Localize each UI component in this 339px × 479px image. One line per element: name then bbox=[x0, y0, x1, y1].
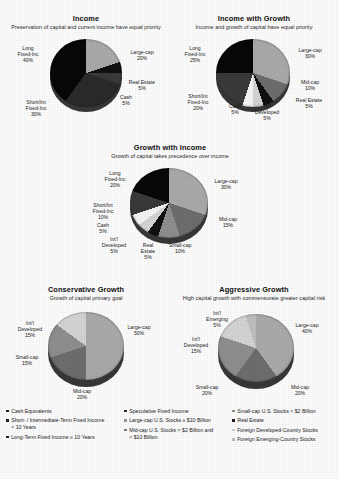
slice-label-long-fixed: Long Fixed-Inc 20% bbox=[94, 170, 136, 189]
legend-swatch-icon bbox=[232, 438, 235, 441]
legend-item: Speculative Fixed Income bbox=[124, 408, 232, 414]
slice-label-mid-cap: Mid-cap 20% bbox=[62, 388, 102, 400]
chart-subtitle: Preservation of capital and current inco… bbox=[6, 24, 166, 31]
pie-face bbox=[48, 312, 124, 380]
pie-face bbox=[216, 39, 290, 107]
document-page: Income Preservation of capital and curre… bbox=[0, 0, 339, 479]
chart-title: Aggressive Growth bbox=[174, 285, 334, 294]
pie-area: Long Fixed-Inc 40% Large-cap 20% Real Es… bbox=[6, 31, 166, 123]
slice-label-long-fixed: Long Fixed-Inc 25% bbox=[174, 45, 216, 64]
legend-item: Long-Term Fixed Income ≥ 10 Years bbox=[6, 434, 124, 440]
legend-label: Mid-cap U.S. Stocks > $2 Billion and bbox=[129, 427, 213, 433]
slice-label-large-cap: Large-cap 40% bbox=[286, 322, 328, 334]
pie-area: Int'l Developed 15% Large-cap 50% Small-… bbox=[6, 302, 166, 404]
chart-title: Growth with Income bbox=[88, 143, 252, 152]
legend-swatch-icon bbox=[232, 429, 235, 432]
legend-column-1: Cash Equivalents Short- / Intermediate-T… bbox=[6, 408, 124, 446]
chart-income: Income Preservation of capital and curre… bbox=[6, 14, 166, 123]
legend-item: Cash Equivalents bbox=[6, 408, 124, 414]
slice-label-real-estate: Real Estate 5% bbox=[120, 79, 164, 91]
legend-item: Short- / Intermediate-Term Fixed Income bbox=[6, 417, 124, 423]
legend-label-continuation: < 10 Years bbox=[6, 424, 124, 430]
slice-label-intl-developed: Int'l Developed 5% bbox=[246, 103, 288, 122]
slice-label-mid-cap: Mid-cap 20% bbox=[280, 384, 320, 396]
slice-label-intl-developed: Int'l Developed 5% bbox=[92, 236, 136, 255]
legend-swatch-icon bbox=[124, 429, 127, 432]
slice-label-mid-cap: Mid-cap 10% bbox=[292, 79, 328, 91]
pie-chart-growth-with-income bbox=[130, 168, 208, 246]
chart-title: Income with Growth bbox=[174, 14, 334, 23]
pie-face bbox=[130, 168, 208, 238]
legend-swatch-icon bbox=[6, 410, 9, 413]
chart-aggressive-growth: Aggressive Growth High capital growth wi… bbox=[174, 285, 334, 404]
chart-income-with-growth: Income with Growth Income and growth of … bbox=[174, 14, 334, 131]
chart-conservative-growth: Conservative Growth Growth of capital pr… bbox=[6, 285, 166, 404]
slice-label-real-estate: Real Estate 5% bbox=[286, 97, 332, 109]
legend-label: Speculative Fixed Income bbox=[129, 408, 188, 414]
slice-label-real-estate: Real Estate 5% bbox=[134, 242, 162, 261]
legend-item: Small-cap U.S. Stocks < $2 Billion bbox=[232, 408, 334, 414]
chart-growth-with-income: Growth with Income Growth of capital tak… bbox=[88, 143, 252, 278]
slice-label-small-cap: Small-cap 10% bbox=[160, 242, 200, 254]
chart-title: Income bbox=[6, 14, 166, 23]
slice-label-large-cap: Large-cap 30% bbox=[290, 47, 330, 59]
legend-item: Real Estate bbox=[232, 417, 334, 423]
legend-column-3: Small-cap U.S. Stocks < $2 Billion Real … bbox=[232, 408, 334, 446]
legend-item: Large-cap U.S. Stocks ≥ $10 Billion bbox=[124, 417, 232, 423]
legend-swatch-icon bbox=[6, 419, 9, 422]
legend-label: Foreign Developed-Country Stocks bbox=[237, 427, 318, 433]
slice-label-large-cap: Large-cap 50% bbox=[118, 324, 160, 336]
chart-subtitle: High capital growth with commensurate gr… bbox=[174, 295, 334, 302]
slice-label-large-cap: Large-cap 20% bbox=[122, 49, 162, 61]
legend-label: Real Estate bbox=[237, 417, 264, 423]
pie-area: Int'l Emerging 5% Large-cap 40% Int'l De… bbox=[174, 302, 334, 404]
slice-label-cash: Cash 5% bbox=[112, 94, 140, 106]
pie-chart-conservative-growth bbox=[48, 312, 124, 388]
slice-label-intl-developed: Int'l Developed 15% bbox=[174, 336, 218, 355]
pie-area: Long Fixed-Inc 20% Large-cap 30% Mid-cap… bbox=[88, 160, 252, 278]
chart-subtitle: Growth of capital takes precedence over … bbox=[88, 153, 252, 160]
chart-subtitle: Income and growth of capital have equal … bbox=[174, 24, 334, 31]
legend-column-2: Speculative Fixed Income Large-cap U.S. … bbox=[124, 408, 232, 446]
legend-swatch-icon bbox=[6, 436, 9, 439]
slice-label-cash: Cash 5% bbox=[222, 103, 248, 115]
legend-label: Long-Term Fixed Income ≥ 10 Years bbox=[11, 434, 94, 440]
slice-label-cash: Cash 5% bbox=[88, 222, 118, 234]
legend-swatch-icon bbox=[124, 419, 127, 422]
slice-label-short-int-fixed: Short/Int Fixed-Inc 10% bbox=[80, 202, 126, 221]
legend-item: Foreign Emerging-Country Stocks bbox=[232, 436, 334, 442]
legend-swatch-icon bbox=[232, 419, 235, 422]
legend-item: Foreign Developed-Country Stocks bbox=[232, 427, 334, 433]
slice-label-small-cap: Small-cap 15% bbox=[6, 354, 48, 366]
pie-chart-income-with-growth bbox=[216, 39, 290, 113]
slice-label-intl-emerging: Int'l Emerging 5% bbox=[196, 310, 238, 329]
legend-label: Small-cap U.S. Stocks < $2 Billion bbox=[237, 408, 316, 414]
legend-label: Short- / Intermediate-Term Fixed Income bbox=[11, 417, 104, 423]
slice-label-short-int-fixed: Short/Int Fixed-Inc 30% bbox=[14, 99, 58, 118]
slice-label-small-cap: Small-cap 20% bbox=[186, 384, 228, 396]
chart-title: Conservative Growth bbox=[6, 285, 166, 294]
chart-subtitle: Growth of capital primary goal bbox=[6, 295, 166, 302]
legend-swatch-icon bbox=[232, 410, 235, 413]
legend-swatch-icon bbox=[124, 410, 127, 413]
slice-label-short-int-fixed: Short/Int Fixed-Inc 20% bbox=[176, 93, 220, 112]
legend-label: Cash Equivalents bbox=[11, 408, 51, 414]
pie-area: Long Fixed-Inc 25% Large-cap 30% Mid-cap… bbox=[174, 31, 334, 131]
slice-label-intl-developed: Int'l Developed 15% bbox=[8, 320, 52, 339]
legend-item: Mid-cap U.S. Stocks > $2 Billion and bbox=[124, 427, 232, 433]
slice-label-large-cap: Large-cap 30% bbox=[206, 178, 246, 190]
legend-label: Foreign Emerging-Country Stocks bbox=[237, 436, 315, 442]
legend-label: Large-cap U.S. Stocks ≥ $10 Billion bbox=[129, 417, 211, 423]
slice-label-mid-cap: Mid-cap 15% bbox=[210, 216, 246, 228]
legend-label-continuation: < $10 Billion bbox=[124, 434, 232, 440]
slice-label-long-fixed: Long Fixed-Inc 40% bbox=[8, 45, 48, 64]
legend: Cash Equivalents Short- / Intermediate-T… bbox=[6, 408, 334, 446]
